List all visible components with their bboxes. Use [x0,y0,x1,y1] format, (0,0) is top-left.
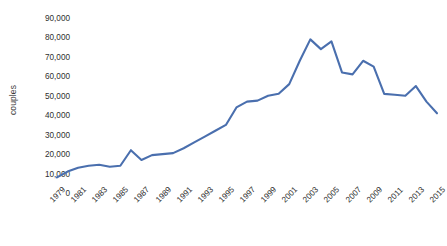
x-axis-tick-label: 2003 [301,185,320,204]
x-axis-tick-label: 1985 [111,185,130,204]
x-axis-tick-label: 2001 [280,185,299,204]
x-axis-tick-label: 1981 [69,185,88,204]
x-axis-tick-label: 2011 [386,186,405,205]
x-axis-tick-label: 2013 [407,185,426,204]
x-axis-tick-label: 2007 [344,185,363,204]
x-axis-tick-label: 2009 [365,185,384,204]
x-axis-tick-label: 1983 [90,185,109,204]
x-axis-tick-label: 1997 [238,185,257,204]
x-axis-tick-label: 1991 [175,185,194,204]
x-axis-tick-label: 1999 [259,185,278,204]
x-axis-tick-label: 1979 [48,185,67,204]
x-axis-tick-label: 1989 [154,185,173,204]
x-axis-tick-label: 1995 [217,185,236,204]
x-axis-tick-label: 1993 [196,185,215,204]
x-axis-tick-label: 1987 [132,185,151,204]
x-axis-tick-label: 2015 [428,185,447,204]
x-axis-tick-label: 2005 [322,185,341,204]
